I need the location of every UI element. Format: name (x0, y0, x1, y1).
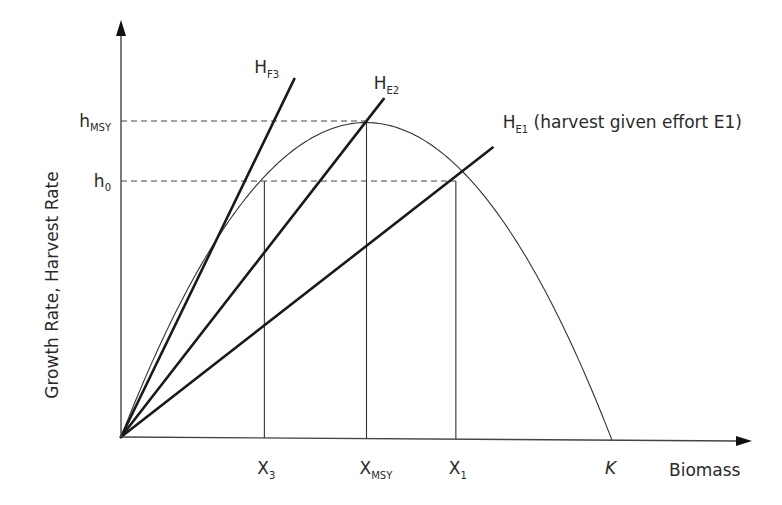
harvest-line-h-e1 (121, 148, 493, 437)
harvest-line-h-e2 (121, 99, 384, 437)
harvest-line-h-f3 (121, 79, 294, 437)
y-axis-label: Growth Rate, Harvest Rate (42, 171, 62, 398)
x-tick-label-x-msy: XMSY (360, 458, 394, 481)
x-axis-label: Biomass (669, 460, 741, 480)
x-tick-label-x-1: X1 (449, 458, 467, 481)
y-axis-arrow-icon (116, 20, 126, 36)
y-tick-label-h-msy: hMSY (79, 111, 112, 133)
x-axis-arrow-icon (736, 436, 752, 446)
x-axis (121, 437, 740, 441)
labels-layer: HE2HF3HE1 (harvest given effort E1)hMSYh… (79, 57, 742, 481)
x-tick-label-x-3: X3 (257, 458, 275, 481)
harvest-label-h-f3: HF3 (254, 57, 279, 80)
y-tick-label-h-0: h0 (94, 171, 111, 193)
axes-layer (116, 20, 752, 446)
harvest-label-h-e1: HE1 (harvest given effort E1) (503, 112, 742, 135)
harvest-growth-chart: HE2HF3HE1 (harvest given effort E1)hMSYh… (0, 0, 782, 505)
harvest-lines-layer (121, 79, 493, 437)
x-tick-label-k: K (605, 458, 618, 478)
reference-lines-layer (121, 121, 456, 439)
harvest-label-h-e2: HE2 (374, 73, 399, 96)
